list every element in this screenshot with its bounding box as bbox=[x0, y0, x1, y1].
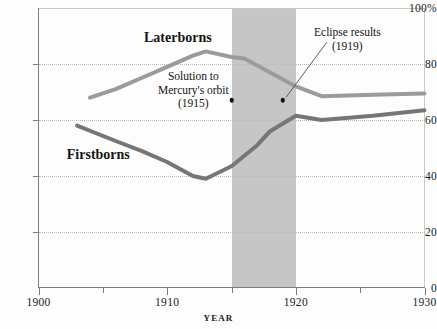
annotation-eclipse-line1: Eclipse results bbox=[314, 26, 381, 40]
x-axis-tick-label: 1900 bbox=[26, 296, 50, 308]
x-axis-tick-mark bbox=[39, 288, 40, 295]
x-axis-tick-label: 1930 bbox=[412, 296, 436, 308]
annotation-mercury-line2: Mercury's orbit bbox=[158, 84, 229, 98]
x-axis-tick-mark bbox=[167, 288, 168, 295]
y-axis-tick-mark bbox=[33, 120, 38, 121]
y-axis-tick-label: 100% bbox=[403, 2, 437, 14]
x-axis-tick-mark bbox=[425, 288, 426, 295]
y-axis-tick-label: 40 bbox=[403, 170, 437, 182]
annotation-mercury-line3: (1915) bbox=[158, 97, 229, 111]
x-axis-tick-label: 1920 bbox=[284, 296, 308, 308]
event-dot-mercury-orbit bbox=[229, 98, 234, 103]
gridline bbox=[39, 176, 425, 177]
x-axis-tick-mark bbox=[232, 288, 233, 293]
x-axis-tick-mark bbox=[296, 288, 297, 295]
y-axis-tick-label: 20 bbox=[403, 226, 437, 238]
x-axis-tick-mark bbox=[103, 288, 104, 293]
y-axis-tick-mark bbox=[33, 232, 38, 233]
x-axis-tick-label: 1910 bbox=[155, 296, 179, 308]
y-axis-tick-label: 80 bbox=[403, 58, 437, 70]
gridline bbox=[39, 232, 425, 233]
y-axis-tick-mark bbox=[33, 176, 38, 177]
gridline bbox=[39, 64, 425, 65]
annotation-eclipse-line2: (1919) bbox=[314, 40, 381, 54]
event-dot-eclipse-results bbox=[281, 98, 286, 103]
annotation-mercury-line1: Solution to bbox=[158, 70, 229, 84]
chart-figure: 020406080100% 1900191019201930 Laterborn… bbox=[0, 0, 437, 329]
y-axis-tick-label: 60 bbox=[403, 114, 437, 126]
gridline bbox=[39, 120, 425, 121]
series-label-firstborns: Firstborns bbox=[67, 147, 130, 163]
x-axis-title: YEAR bbox=[0, 313, 437, 323]
y-axis-tick-label: 0 bbox=[403, 282, 437, 294]
x-axis-tick-mark bbox=[360, 288, 361, 293]
annotation-eclipse-results: Eclipse results (1919) bbox=[314, 26, 381, 53]
annotation-mercury-orbit: Solution to Mercury's orbit (1915) bbox=[158, 70, 229, 111]
series-label-laterborns: Laterborns bbox=[144, 30, 212, 46]
y-axis-tick-mark bbox=[33, 64, 38, 65]
